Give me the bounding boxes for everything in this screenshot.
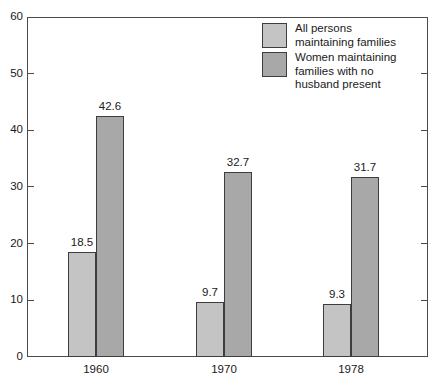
bar[interactable] — [323, 304, 351, 357]
y-tick-left — [27, 300, 34, 301]
legend-label: Women maintaining families with no husba… — [295, 51, 396, 92]
y-tick-label: 40 — [0, 124, 23, 136]
y-tick-label-text: 20 — [1, 238, 23, 250]
x-tick-label: 1970 — [176, 364, 272, 376]
y-tick-left — [27, 73, 34, 74]
y-tick-right — [421, 300, 428, 301]
y-tick-left — [27, 243, 34, 244]
bar-chart: 0102030405060 18.542.69.732.79.331.7 196… — [0, 0, 433, 387]
y-tick-label: 20 — [0, 238, 23, 250]
bar[interactable] — [68, 252, 96, 357]
y-tick-label: 60 — [0, 11, 23, 23]
y-tick-right — [421, 186, 428, 187]
y-tick-right — [421, 130, 428, 131]
y-tick-label: 0 — [0, 351, 23, 363]
x-tick-label: 1978 — [303, 364, 399, 376]
y-tick-label: 50 — [0, 68, 23, 80]
y-tick-left — [27, 130, 34, 131]
y-tick-label: 10 — [0, 294, 23, 306]
legend-swatch-icon — [262, 52, 287, 77]
y-tick-label-text: 50 — [1, 68, 23, 80]
legend-label: All persons maintaining families — [295, 22, 396, 49]
legend-item[interactable]: Women maintaining families with no husba… — [262, 51, 396, 92]
y-tick-label-text: 60 — [1, 11, 23, 23]
y-tick-label-text: 0 — [1, 351, 23, 363]
y-tick-label-text: 30 — [1, 181, 23, 193]
y-tick-label-text: 10 — [1, 294, 23, 306]
y-tick-right — [421, 243, 428, 244]
legend-swatch-icon — [262, 23, 287, 48]
bar[interactable] — [196, 302, 224, 357]
y-tick-left — [27, 186, 34, 187]
legend: All persons maintaining familiesWomen ma… — [262, 22, 396, 94]
bar[interactable] — [351, 177, 379, 357]
bar[interactable] — [96, 116, 124, 357]
x-tick-label: 1960 — [48, 364, 144, 376]
y-tick-right — [421, 73, 428, 74]
y-tick-label: 30 — [0, 181, 23, 193]
bar[interactable] — [224, 172, 252, 357]
y-tick-label-text: 40 — [1, 124, 23, 136]
legend-item[interactable]: All persons maintaining families — [262, 22, 396, 49]
